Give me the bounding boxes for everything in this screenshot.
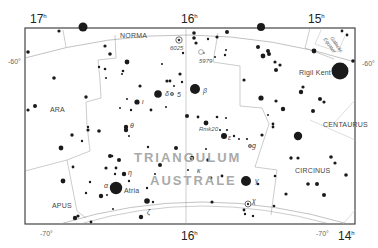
star-icon xyxy=(241,176,251,186)
star-icon xyxy=(238,138,240,140)
star-icon xyxy=(243,209,246,212)
star-icon xyxy=(173,85,175,87)
star-designation-label: β xyxy=(202,87,207,95)
star-icon xyxy=(272,126,275,129)
star-icon xyxy=(225,117,227,119)
star-icon xyxy=(312,49,317,54)
star-icon xyxy=(26,50,30,54)
object-label: 5979 xyxy=(199,58,213,64)
dec-label: -70° xyxy=(316,230,329,237)
star-icon xyxy=(192,31,196,35)
star-icon xyxy=(346,34,349,37)
constellation-title-line1: TRIANGULUM xyxy=(134,150,241,165)
constellation-label: CIRCINUS xyxy=(295,167,331,174)
star-icon xyxy=(267,52,271,56)
star-icon xyxy=(273,205,276,208)
star-icon xyxy=(219,129,221,131)
star-icon xyxy=(272,123,275,126)
cluster-center-icon xyxy=(171,93,173,95)
object-label: Rmk20 xyxy=(199,126,219,132)
star-icon xyxy=(274,68,278,72)
star-icon xyxy=(57,29,60,32)
star-icon xyxy=(301,85,304,88)
star-icon xyxy=(210,200,213,203)
star-icon xyxy=(225,49,227,51)
star-designation-label: θ xyxy=(130,122,134,129)
star-icon xyxy=(181,81,183,83)
star-icon xyxy=(104,68,107,71)
star-icon xyxy=(204,121,209,126)
star-icon xyxy=(344,173,348,177)
star-icon xyxy=(97,129,101,133)
star-icon xyxy=(138,84,141,87)
star-icon xyxy=(98,66,100,68)
star-icon xyxy=(86,128,89,131)
star-icon xyxy=(274,175,277,178)
constellation-label: NORMA xyxy=(120,32,147,39)
cluster-center-icon xyxy=(249,145,251,147)
star-icon xyxy=(182,52,184,54)
star-icon xyxy=(215,35,218,38)
star-icon xyxy=(122,70,125,73)
star-icon xyxy=(128,135,130,137)
star-icon xyxy=(185,114,189,118)
star-icon xyxy=(197,116,200,119)
star-icon xyxy=(169,80,172,83)
star-icon xyxy=(299,90,303,94)
star-icon xyxy=(318,97,322,101)
star-icon xyxy=(72,166,75,169)
star-icon xyxy=(207,38,209,40)
star-icon xyxy=(111,155,114,158)
star-icon xyxy=(112,208,114,210)
star-icon xyxy=(203,52,205,54)
star-designation-label: δ xyxy=(165,90,169,97)
star-icon xyxy=(311,109,315,113)
object-label: Atria xyxy=(124,187,139,194)
star-icon xyxy=(106,194,108,196)
star-icon xyxy=(322,100,325,103)
star-icon xyxy=(242,78,245,81)
star-icon xyxy=(190,84,200,94)
star-icon xyxy=(226,129,228,131)
star-icon xyxy=(152,201,154,203)
star-icon xyxy=(125,60,130,65)
star-icon xyxy=(70,133,73,136)
ra-unit: h xyxy=(194,13,197,19)
star-icon xyxy=(165,79,168,82)
star-icon xyxy=(79,23,88,32)
star-icon xyxy=(108,52,112,56)
star-icon xyxy=(122,172,126,176)
star-icon xyxy=(87,126,89,128)
star-icon xyxy=(90,221,93,224)
star-icon xyxy=(81,140,83,142)
cluster-center-icon xyxy=(178,39,181,42)
star-icon xyxy=(26,108,29,111)
star-icon xyxy=(257,23,265,31)
object-label: Rigil Kent xyxy=(299,69,331,77)
star-icon xyxy=(274,99,277,102)
star-icon xyxy=(150,109,153,112)
star-icon xyxy=(165,106,167,108)
star-icon xyxy=(260,133,263,136)
star-icon xyxy=(246,138,248,140)
star-icon xyxy=(105,77,107,79)
star-icon xyxy=(103,44,106,47)
star-icon xyxy=(99,194,103,198)
constellation-label: ARA xyxy=(50,106,65,113)
ra-unit: h xyxy=(43,13,46,19)
star-chart: 17h16h15h16h14h-60°-60°-70°-70°NORMAARAA… xyxy=(0,0,378,248)
star-icon xyxy=(289,156,292,159)
star-icon xyxy=(267,114,269,116)
star-icon xyxy=(214,56,216,58)
star-icon xyxy=(52,76,56,80)
star-icon xyxy=(161,63,163,65)
star-icon xyxy=(134,99,139,104)
star-designation-label: g xyxy=(252,142,256,150)
star-icon xyxy=(121,73,123,75)
star-icon xyxy=(261,54,266,59)
star-icon xyxy=(147,146,149,148)
star-icon xyxy=(233,135,235,137)
star-icon xyxy=(73,216,77,220)
star-icon xyxy=(33,104,37,108)
star-icon xyxy=(256,45,260,49)
